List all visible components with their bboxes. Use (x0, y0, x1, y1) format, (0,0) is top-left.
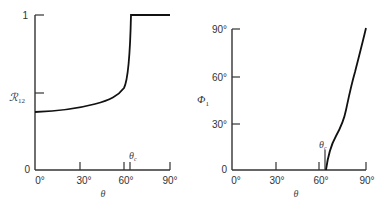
right-y-label-30: 30° (212, 119, 227, 130)
right-y-label-60: 60° (212, 72, 227, 83)
right-theta-c-label: θc (319, 139, 327, 151)
right-x-label-30: 30° (269, 175, 284, 186)
right-x-label-60: 60° (313, 175, 328, 186)
left-x-label-30: 30° (76, 175, 91, 186)
right-y-label-0: 0 (221, 164, 227, 175)
left-x-label-90: 90° (162, 175, 177, 186)
left-x-label-60: 60° (118, 175, 133, 186)
left-curve-r12 (35, 15, 170, 112)
left-x-label-0: 0° (35, 175, 45, 186)
left-chart: 1 0 0° 30° 60° 90° θ ℛ12 θc (9, 10, 178, 199)
right-x-label-90: 90° (359, 175, 374, 186)
left-theta-c-label: θc (129, 150, 137, 162)
left-y-label-1: 1 (22, 10, 28, 21)
right-y-label-90: 90° (212, 24, 227, 35)
right-curve-phi1 (326, 28, 366, 170)
left-x-axis-title: θ (101, 188, 106, 199)
left-y-axis-title: ℛ12 (9, 91, 26, 105)
figure: 1 0 0° 30° 60° 90° θ ℛ12 θc 90° 60° 30° … (0, 0, 385, 210)
right-chart: 90° 60° 30° 0 0° 30° 60° 90° θ Φ1 θc (197, 24, 375, 199)
right-x-axis-title: θ (294, 188, 299, 199)
right-y-axis-title: Φ1 (197, 93, 209, 108)
right-x-label-0: 0° (231, 175, 241, 186)
left-y-label-0: 0 (24, 164, 30, 175)
